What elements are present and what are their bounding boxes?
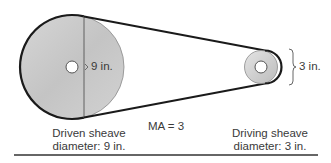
driven-caption: Driven sheave diameter: 9 in.	[34, 127, 144, 153]
mechanical-advantage-label: MA = 3	[148, 120, 184, 133]
driving-sheave	[245, 51, 282, 84]
driven-caption-line2: diameter: 9 in.	[34, 140, 144, 153]
driven-caption-line1: Driven sheave	[34, 127, 144, 140]
brace-icon	[289, 49, 296, 85]
driving-size-label: 3 in.	[299, 60, 321, 73]
driving-caption: Driving sheave diameter: 3 in.	[220, 127, 320, 153]
driving-hub	[255, 61, 267, 73]
driving-caption-line1: Driving sheave	[220, 127, 320, 140]
driven-size-label: 9 in.	[91, 60, 113, 73]
driven-hub	[66, 61, 78, 73]
driving-caption-line2: diameter: 3 in.	[220, 140, 320, 153]
